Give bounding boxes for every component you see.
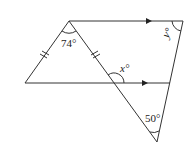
equal-tick-right-icon (91, 51, 100, 58)
parallel-arrow-lower-icon (142, 80, 148, 86)
y-angle-arc-icon (172, 21, 181, 31)
bottom-angle-label: 50° (145, 112, 160, 124)
parallel-arrow-top-icon (146, 18, 152, 24)
equal-tick-left-icon (40, 51, 49, 58)
apex-angle-arc-icon (62, 31, 76, 33)
apex-angle-label: 74° (61, 37, 76, 49)
y-angle-label: y° (159, 25, 175, 40)
left-side-line (25, 21, 69, 83)
geometry-figure: 74° x° y° 50° (0, 0, 192, 153)
bottom-angle-arc-icon (150, 131, 159, 133)
x-angle-label: x° (119, 62, 130, 74)
